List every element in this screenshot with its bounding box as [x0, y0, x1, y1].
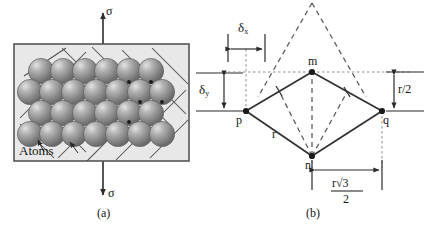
stress-top-label: σ [106, 4, 112, 19]
figure-container: σ σ Atoms δy (a) δx p m q n r r/2 r√3 2 … [0, 0, 430, 229]
node-label-p: p [236, 113, 242, 128]
node-p [243, 108, 249, 114]
panel-b-group [228, 3, 424, 191]
panel-b-caption: (b) [306, 206, 320, 221]
rhombus-edges [246, 72, 382, 156]
node-label-q: q [383, 113, 389, 128]
base-denominator-label: 2 [343, 192, 349, 207]
delta-y-label: δy [199, 82, 209, 98]
rhombus-nodes [243, 69, 385, 159]
figure-svg [0, 0, 430, 229]
stress-bottom-label: σ [108, 186, 114, 201]
node-m [309, 69, 315, 75]
delta-x-label: δx [238, 20, 248, 36]
delta-y-subscript: y [205, 89, 209, 98]
delta-x-subscript: x [244, 27, 248, 36]
atoms-label: Atoms [19, 143, 54, 159]
r-half-label: r/2 [398, 82, 411, 97]
edge-label-r: r [272, 127, 276, 142]
panel-a-caption: (a) [97, 206, 110, 221]
delta-x-dimension [228, 34, 265, 62]
atoms-group [17, 58, 174, 146]
node-label-n: n [305, 158, 311, 173]
node-label-m: m [308, 54, 317, 69]
base-numerator-label: r√3 [332, 176, 349, 191]
panel-a-group [14, 13, 243, 195]
